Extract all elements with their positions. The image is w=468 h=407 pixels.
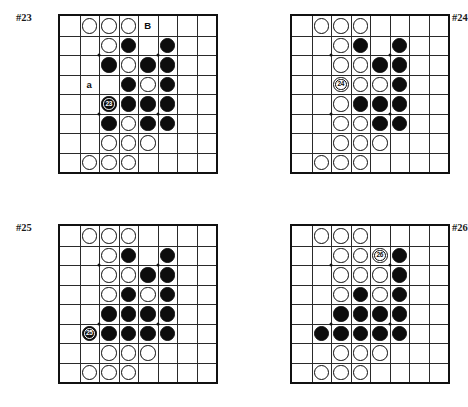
- stone-white[interactable]: [140, 345, 156, 361]
- point-marker-a[interactable]: a: [80, 75, 100, 95]
- numbered-stone-24[interactable]: 24: [333, 77, 349, 93]
- stone-white[interactable]: [333, 248, 349, 264]
- stone-black[interactable]: [121, 287, 137, 303]
- point-marker-B[interactable]: B: [138, 16, 158, 36]
- diagram-23-board[interactable]: 23Ba: [58, 14, 218, 174]
- stone-white[interactable]: [121, 57, 137, 73]
- stone-black[interactable]: [160, 248, 176, 264]
- stone-black[interactable]: [160, 38, 176, 54]
- stone-white[interactable]: [101, 287, 117, 303]
- stone-black[interactable]: [333, 306, 349, 322]
- stone-white[interactable]: [121, 155, 137, 171]
- stone-black[interactable]: [121, 96, 137, 112]
- stone-black[interactable]: [372, 306, 388, 322]
- stone-black[interactable]: [160, 326, 176, 342]
- stone-black[interactable]: [392, 306, 408, 322]
- stone-white[interactable]: [82, 365, 98, 381]
- stone-black[interactable]: [353, 326, 369, 342]
- stone-black[interactable]: [140, 96, 156, 112]
- numbered-stone-23[interactable]: 23: [101, 96, 117, 112]
- stone-black[interactable]: [372, 326, 388, 342]
- stone-white[interactable]: [101, 18, 117, 34]
- stone-white[interactable]: [101, 155, 117, 171]
- stone-white[interactable]: [101, 267, 117, 283]
- stone-black[interactable]: [121, 77, 137, 93]
- stone-white[interactable]: [333, 267, 349, 283]
- stone-white[interactable]: [353, 365, 369, 381]
- stone-white[interactable]: [121, 116, 137, 132]
- stone-white[interactable]: [314, 155, 330, 171]
- stone-white[interactable]: [82, 228, 98, 244]
- stone-black[interactable]: [140, 116, 156, 132]
- stone-white[interactable]: [333, 228, 349, 244]
- stone-white[interactable]: [101, 365, 117, 381]
- stone-white[interactable]: [121, 365, 137, 381]
- stone-white[interactable]: [121, 228, 137, 244]
- stone-white[interactable]: [353, 57, 369, 73]
- stone-black[interactable]: [392, 77, 408, 93]
- stone-black[interactable]: [160, 267, 176, 283]
- stone-black[interactable]: [392, 326, 408, 342]
- stone-white[interactable]: [353, 228, 369, 244]
- stone-white[interactable]: [372, 135, 388, 151]
- stone-white[interactable]: [333, 287, 349, 303]
- stone-black[interactable]: [160, 116, 176, 132]
- stone-white[interactable]: [353, 116, 369, 132]
- stone-black[interactable]: [121, 306, 137, 322]
- stone-white[interactable]: [353, 248, 369, 264]
- stone-black[interactable]: [160, 77, 176, 93]
- stone-white[interactable]: [121, 267, 137, 283]
- stone-white[interactable]: [121, 345, 137, 361]
- stone-white[interactable]: [372, 287, 388, 303]
- stone-black[interactable]: [140, 326, 156, 342]
- stone-black[interactable]: [160, 306, 176, 322]
- numbered-stone-26[interactable]: 26: [372, 248, 388, 264]
- stone-black[interactable]: [101, 326, 117, 342]
- stone-white[interactable]: [101, 228, 117, 244]
- stone-white[interactable]: [121, 135, 137, 151]
- stone-white[interactable]: [353, 345, 369, 361]
- stone-black[interactable]: [140, 57, 156, 73]
- stone-black[interactable]: [372, 96, 388, 112]
- stone-black[interactable]: [140, 267, 156, 283]
- stone-white[interactable]: [101, 345, 117, 361]
- stone-black[interactable]: [160, 287, 176, 303]
- stone-white[interactable]: [101, 248, 117, 264]
- numbered-stone-25[interactable]: 25: [82, 326, 98, 342]
- stone-black[interactable]: [392, 57, 408, 73]
- diagram-26-board[interactable]: 26: [290, 224, 450, 384]
- stone-white[interactable]: [140, 287, 156, 303]
- stone-black[interactable]: [140, 306, 156, 322]
- stone-white[interactable]: [353, 18, 369, 34]
- stone-black[interactable]: [392, 96, 408, 112]
- stone-white[interactable]: [121, 18, 137, 34]
- stone-white[interactable]: [333, 38, 349, 54]
- stone-white[interactable]: [333, 155, 349, 171]
- stone-white[interactable]: [333, 365, 349, 381]
- stone-black[interactable]: [314, 326, 330, 342]
- stone-white[interactable]: [140, 77, 156, 93]
- stone-black[interactable]: [353, 38, 369, 54]
- stone-white[interactable]: [353, 135, 369, 151]
- stone-white[interactable]: [353, 267, 369, 283]
- stone-white[interactable]: [140, 135, 156, 151]
- stone-black[interactable]: [392, 38, 408, 54]
- stone-white[interactable]: [372, 345, 388, 361]
- stone-white[interactable]: [82, 155, 98, 171]
- stone-black[interactable]: [353, 96, 369, 112]
- stone-black[interactable]: [121, 38, 137, 54]
- stone-black[interactable]: [121, 326, 137, 342]
- stone-black[interactable]: [160, 96, 176, 112]
- stone-black[interactable]: [160, 57, 176, 73]
- stone-white[interactable]: [333, 116, 349, 132]
- stone-black[interactable]: [101, 57, 117, 73]
- stone-black[interactable]: [392, 287, 408, 303]
- stone-black[interactable]: [392, 267, 408, 283]
- stone-white[interactable]: [372, 77, 388, 93]
- stone-white[interactable]: [314, 18, 330, 34]
- stone-white[interactable]: [353, 77, 369, 93]
- diagram-24-board[interactable]: 24: [290, 14, 450, 174]
- stone-black[interactable]: [353, 287, 369, 303]
- stone-black[interactable]: [353, 306, 369, 322]
- stone-white[interactable]: [333, 96, 349, 112]
